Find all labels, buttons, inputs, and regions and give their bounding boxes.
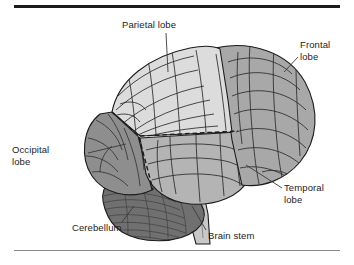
parietal-lobe-region xyxy=(112,46,232,138)
label-parietal-lobe: Parietal lobe xyxy=(122,19,176,31)
label-temporal-lobe: Temporal lobe xyxy=(284,182,324,205)
label-occipital-lobe: Occipital lobe xyxy=(12,144,49,167)
figure-page: Parietal lobe Frontal lobe Occipital lob… xyxy=(0,0,354,265)
label-cerebellum: Cerebellum xyxy=(72,222,122,234)
label-frontal-lobe: Frontal lobe xyxy=(300,39,330,62)
label-brain-stem: Brain stem xyxy=(208,230,254,242)
